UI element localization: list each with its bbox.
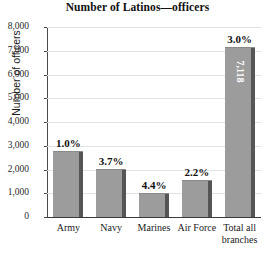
y-tick-mark bbox=[44, 51, 47, 52]
bar-value-label: 7,118 bbox=[234, 60, 245, 82]
y-tick-mark bbox=[44, 170, 47, 171]
bar-shadow-edge bbox=[165, 194, 169, 217]
chart-title: Number of Latinos—officers bbox=[0, 1, 275, 13]
y-tick-mark bbox=[44, 98, 47, 99]
y-tick-mark bbox=[44, 75, 47, 76]
y-tick-label: 6,000 bbox=[0, 69, 29, 79]
y-tick-label: 3,000 bbox=[0, 140, 29, 150]
x-tick-label: Total all branches bbox=[216, 222, 263, 245]
bar-percent-label: 3.0% bbox=[227, 33, 252, 45]
y-tick-mark bbox=[44, 217, 47, 218]
bar-shadow-edge bbox=[79, 152, 83, 217]
y-tick-label: 8,000 bbox=[0, 21, 29, 31]
bar-chart: Number of Latinos—officers Number of off… bbox=[0, 0, 275, 257]
y-tick-label: 0 bbox=[0, 211, 29, 221]
y-tick-label: 7,000 bbox=[0, 45, 29, 55]
x-tick-label: Air Force bbox=[173, 222, 220, 234]
y-tick-mark bbox=[44, 146, 47, 147]
y-tick-mark bbox=[44, 122, 47, 123]
y-tick-label: 2,000 bbox=[0, 164, 29, 174]
bar-shadow-edge bbox=[251, 48, 255, 217]
bar-shadow-edge bbox=[208, 181, 212, 217]
x-tick-label: Army bbox=[45, 222, 92, 234]
bar[interactable]: 3.7% bbox=[96, 170, 126, 218]
bar-percent-label: 4.4% bbox=[142, 179, 167, 191]
y-tick-mark bbox=[44, 193, 47, 194]
gridline bbox=[47, 27, 261, 28]
y-tick-label: 1,000 bbox=[0, 187, 29, 197]
bar-percent-label: 1.0% bbox=[56, 137, 81, 149]
y-tick-label: 5,000 bbox=[0, 92, 29, 102]
bar-percent-label: 3.7% bbox=[99, 155, 124, 167]
bar[interactable]: 4.4% bbox=[139, 194, 169, 217]
plot-area: 01,0002,0003,0004,0005,0006,0007,0008,00… bbox=[47, 27, 261, 218]
x-axis-line bbox=[47, 217, 261, 218]
bar[interactable]: 1.0% bbox=[53, 152, 83, 217]
x-tick-label: Navy bbox=[88, 222, 135, 234]
x-tick-label: Marines bbox=[131, 222, 178, 234]
bar-shadow-edge bbox=[122, 170, 126, 218]
y-tick-mark bbox=[44, 27, 47, 28]
bar[interactable]: 2.2% bbox=[182, 181, 212, 217]
bar-percent-label: 2.2% bbox=[184, 166, 209, 178]
bar[interactable]: 3.0%7,118 bbox=[225, 48, 255, 217]
y-tick-label: 4,000 bbox=[0, 116, 29, 126]
